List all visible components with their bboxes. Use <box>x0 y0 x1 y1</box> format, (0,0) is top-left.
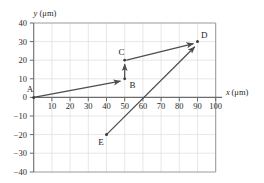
x-axis-ticks <box>52 97 216 101</box>
x-tick-90: 90 <box>193 101 202 111</box>
x-axis-title-var: x <box>225 87 230 97</box>
point-labels: A B C D E <box>27 30 208 147</box>
point-label-b: B <box>130 80 136 90</box>
axes <box>34 23 222 172</box>
x-tick-60: 60 <box>139 101 148 111</box>
point-markers <box>32 40 199 136</box>
x-tick-50: 50 <box>120 101 129 111</box>
x-tick-40: 40 <box>102 101 111 111</box>
x-tick-30: 30 <box>84 101 93 111</box>
point-b <box>123 77 126 80</box>
y-tick-m30: −30 <box>14 148 27 158</box>
point-label-c: C <box>118 47 124 57</box>
x-tick-20: 20 <box>66 101 75 111</box>
x-tick-80: 80 <box>175 101 184 111</box>
point-c <box>123 59 126 62</box>
x-axis-title-unit: (μm) <box>232 87 249 97</box>
point-label-a: A <box>27 84 34 94</box>
y-tick-10: 10 <box>19 74 28 84</box>
point-label-d: D <box>201 30 208 40</box>
coordinate-plot-figure: 40 30 20 10 0 −10 −20 −30 −40 10 20 30 4… <box>0 0 264 183</box>
y-axis-title-unit: (μm) <box>40 8 57 18</box>
y-tick-m20: −20 <box>14 130 27 140</box>
y-tick-m40: −40 <box>14 167 27 177</box>
x-tick-10: 10 <box>48 101 57 111</box>
y-tick-labels: 40 30 20 10 0 −10 −20 −30 −40 <box>14 18 27 177</box>
point-label-e: E <box>98 137 104 147</box>
point-d <box>196 40 199 43</box>
y-tick-20: 20 <box>19 55 28 65</box>
y-tick-30: 30 <box>19 37 28 47</box>
plot-canvas: 40 30 20 10 0 −10 −20 −30 −40 10 20 30 4… <box>0 0 264 183</box>
x-tick-100: 100 <box>209 101 222 111</box>
y-tick-m10: −10 <box>14 111 27 121</box>
arrow-a-to-b <box>34 81 121 97</box>
y-axis-title-var: y <box>33 8 38 18</box>
point-e <box>105 133 108 136</box>
vector-path <box>34 44 195 135</box>
y-tick-40: 40 <box>19 18 28 28</box>
point-a <box>32 96 35 99</box>
x-tick-70: 70 <box>157 101 166 111</box>
